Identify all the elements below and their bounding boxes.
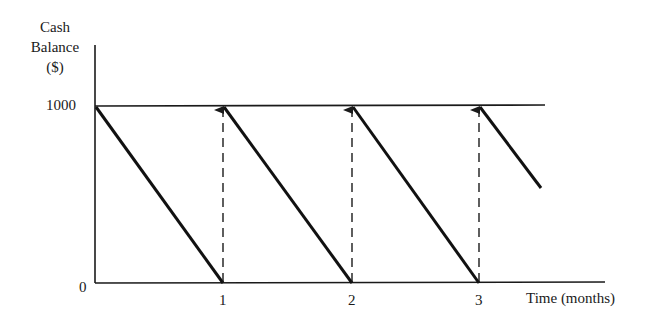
y-axis-title: Cash Balance ($): [22, 17, 88, 77]
cash-balance-chart: Cash Balance ($) 1000 0 1 2 3 Time (mont…: [0, 0, 670, 325]
chart-plot-area: [0, 0, 670, 325]
x-tick-1: 1: [219, 292, 227, 309]
x-axis-title: Time (months): [526, 290, 615, 307]
decline-segment-2: [224, 107, 352, 283]
y-tick-1000: 1000: [46, 97, 76, 114]
y-axis-title-line-3: ($): [22, 57, 88, 77]
x-tick-2: 2: [348, 292, 356, 309]
decline-segment-4: [480, 107, 541, 188]
x-tick-3: 3: [475, 292, 483, 309]
decline-segment-3: [353, 107, 479, 283]
y-axis-title-line-1: Cash: [22, 17, 88, 37]
y-axis-title-line-2: Balance: [22, 37, 88, 57]
y-tick-0: 0: [79, 279, 87, 296]
max-balance-line: [95, 105, 545, 106]
decline-segment-1: [96, 107, 223, 283]
